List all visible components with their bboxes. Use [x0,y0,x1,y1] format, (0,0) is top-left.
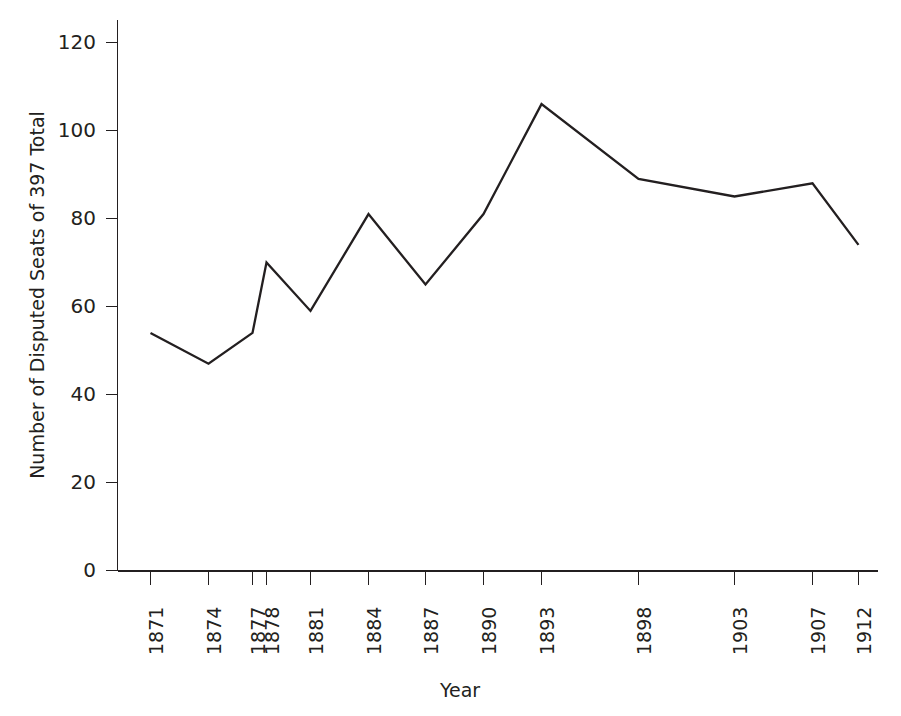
y-tick-label-120: 120 [58,30,96,54]
chart-page: 120 100 80 60 40 20 0 1871 18 [0,0,901,716]
y-tick-label-60: 60 [71,294,96,318]
x-tick-label-1881: 1881 [305,607,327,655]
x-tick-label-1890: 1890 [478,607,500,655]
x-tick-label-1893: 1893 [536,607,558,655]
y-tick-label-40: 40 [71,382,96,406]
x-tick-label-1871: 1871 [145,607,167,655]
x-axis-ticks [151,571,859,585]
x-axis-tick-labels: 1871 1874 1877 1878 1881 1884 1887 1890 … [145,607,875,655]
x-tick-label-1903: 1903 [729,607,751,655]
x-tick-label-1907: 1907 [807,607,829,655]
line-chart: 120 100 80 60 40 20 0 1871 18 [0,0,901,716]
y-tick-label-80: 80 [71,206,96,230]
x-axis-title: Year [439,679,480,701]
y-axis-ticks [106,43,118,571]
x-tick-label-1912: 1912 [853,607,875,655]
data-series-line [151,104,859,364]
x-tick-label-1878: 1878 [261,607,283,655]
y-tick-label-100: 100 [58,118,96,142]
x-tick-label-1874: 1874 [203,607,225,655]
y-axis-title: Number of Disputed Seats of 397 Total [26,111,48,479]
y-axis-tick-labels: 120 100 80 60 40 20 0 [58,30,96,582]
x-tick-label-1884: 1884 [363,607,385,655]
y-tick-label-20: 20 [71,470,96,494]
x-tick-label-1898: 1898 [633,607,655,655]
x-tick-label-1887: 1887 [420,607,442,655]
y-tick-label-0: 0 [83,558,96,582]
